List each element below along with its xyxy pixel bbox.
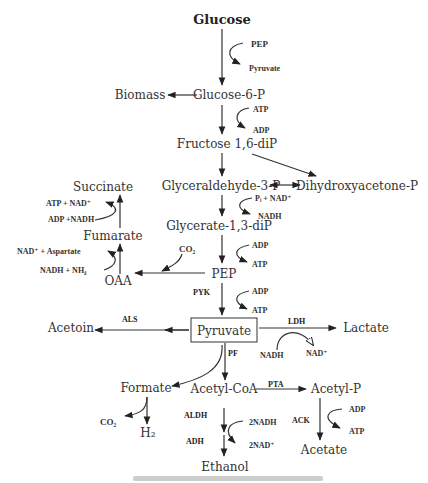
2nad-label: 2NAD⁺ xyxy=(249,441,275,450)
atp-nad-label: ATP + NAD⁺ xyxy=(46,199,91,208)
ethanol-label: Ethanol xyxy=(201,460,248,474)
aldh-enzyme-label: ALDH xyxy=(184,411,208,420)
pyruvate-cofactor-label: Pyruvate xyxy=(249,64,281,73)
pyruvate-label: Pyruvate xyxy=(197,324,251,338)
adh-enzyme-label: ADH xyxy=(186,437,205,446)
acetoin-label: Acetoin xyxy=(47,321,94,335)
ldh-enzyme-label: LDH xyxy=(288,317,306,326)
acetyl-p-label: Acetyl-P xyxy=(310,382,361,396)
adp-label: ADP xyxy=(253,126,270,135)
co2-pep-label: CO₂ xyxy=(179,244,196,254)
adp-label: ADP xyxy=(252,241,269,250)
h2-label: H₂ xyxy=(140,426,155,440)
pta-enzyme-label: PTA xyxy=(268,380,284,389)
atp-label: ATP xyxy=(252,260,268,269)
glucose-label: Glucose xyxy=(193,12,251,27)
nadh-label: NADH xyxy=(258,212,282,221)
glycerate-label: Glycerate-1,3-diP xyxy=(166,219,272,233)
adp-label: ADP xyxy=(252,287,269,296)
2nadh-label: 2NADH xyxy=(249,418,277,427)
glucose-6-p-label: Glucose-6-P xyxy=(193,88,265,102)
succinate-label: Succinate xyxy=(73,180,133,194)
pi-nad-label: Pᵢ + NAD⁺ xyxy=(255,194,291,203)
nadh-nh4-label: NADH + NH₄ xyxy=(40,266,87,275)
fumarate-label: Fumarate xyxy=(83,229,142,243)
atp-label: ATP xyxy=(253,105,269,114)
acetyl-coa-label: Acetyl-CoA xyxy=(189,382,257,396)
pf-enzyme-label: PF xyxy=(228,349,238,358)
pep-label: PEP xyxy=(212,267,237,281)
ack-enzyme-label: ACK xyxy=(292,416,311,425)
pep-cofactor-label: PEP xyxy=(251,39,269,49)
als-enzyme-label: ALS xyxy=(122,315,138,324)
nad-ldh-label: NAD⁺ xyxy=(306,349,328,358)
co2-formate-label: CO₂ xyxy=(100,417,117,427)
caption-illegible xyxy=(133,476,323,481)
glyceraldehyde-3-p-label: Glyceraldehyde-3-P xyxy=(162,179,281,193)
adp-nadh-label: ADP +NADH xyxy=(48,215,95,224)
atp-label: ATP xyxy=(252,306,268,315)
biomass-label: Biomass xyxy=(115,88,166,102)
pathway-svg: Glucose Glucose-6-P Biomass Fructose 1,6… xyxy=(0,0,428,483)
metabolic-pathway-diagram: Glucose Glucose-6-P Biomass Fructose 1,6… xyxy=(0,0,428,483)
fructose-label: Fructose 1,6-diP xyxy=(177,137,277,151)
nad-aspartate-label: NAD⁺ + Aspartate xyxy=(17,247,81,256)
nadh-ldh-label: NADH xyxy=(260,351,284,360)
adp-ack-label: ADP xyxy=(349,405,366,414)
dihydroxyacetone-p-label: Dihydroxyacetone-P xyxy=(296,179,418,193)
oaa-label: OAA xyxy=(104,274,132,288)
atp-ack-label: ATP xyxy=(349,427,365,436)
pyk-enzyme-label: PYK xyxy=(193,288,211,297)
formate-label: Formate xyxy=(120,381,171,395)
lactate-label: Lactate xyxy=(343,321,389,335)
acetate-label: Acetate xyxy=(300,443,347,457)
